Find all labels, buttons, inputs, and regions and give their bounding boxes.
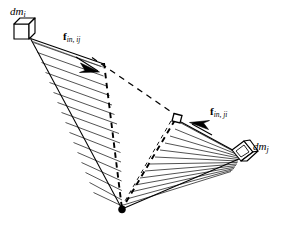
right-fan-lower-edge	[122, 159, 240, 210]
left-fan-hatching	[34, 43, 123, 207]
right-fan-hatching	[124, 123, 239, 206]
label-mass-i-symbol: dm	[10, 5, 23, 17]
top-dashed-connector	[92, 58, 177, 116]
figure-drawing	[0, 0, 284, 232]
right-hatched-fan	[122, 120, 241, 209]
mid-square-outline	[172, 114, 182, 124]
label-mass-j-symbol: dm	[253, 140, 266, 152]
mid-square-marker	[172, 114, 182, 124]
left-fan-long-edge	[31, 39, 123, 210]
left-fan-dashed-edge	[104, 63, 122, 209]
label-force-ij-subscript: in, ij	[67, 35, 81, 44]
figure-container: dmi dmj fin, ij fin, ji	[0, 0, 284, 232]
right-fan-dashed-edge	[122, 120, 175, 209]
cube-i-front-face	[14, 24, 29, 39]
label-force-ij: fin, ij	[63, 31, 80, 43]
label-mass-j-subscript: j	[266, 145, 268, 154]
left-hatched-fan	[31, 39, 123, 210]
common-vertex-dot	[119, 206, 126, 213]
label-force-ji-subscript: in, ji	[214, 110, 228, 119]
right-fan-upper-edge	[181, 122, 240, 154]
mass-element-i-cube	[14, 18, 35, 39]
label-mass-i-subscript: i	[23, 10, 25, 19]
label-mass-element-i: dmi	[10, 6, 26, 19]
label-force-ji: fin, ji	[210, 106, 227, 118]
label-mass-element-j: dmj	[253, 141, 269, 154]
